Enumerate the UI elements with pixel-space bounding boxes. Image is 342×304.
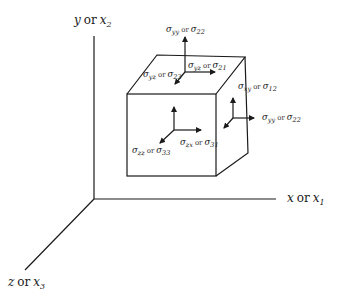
right-face-stress-arrows: [224, 98, 254, 128]
stress-cube-diagram: yorx2 xorx1 zorx3 σyyorσ22 σyzorσ21 σyzo…: [0, 0, 342, 304]
stress-label-sigma-zx-31: σzxorσ31: [180, 138, 219, 149]
stress-label-sigma-yz-23: σyzorσ23: [143, 70, 182, 81]
stress-label-sigma-yy-right: σyyorσ22: [262, 113, 301, 124]
z-axis-label: zorx3: [8, 276, 45, 291]
cube-front-face: [127, 94, 216, 176]
stress-label-sigma-zz-33: σzzorσ33: [132, 146, 170, 157]
y-axis-label: yorx2: [74, 14, 112, 29]
diagram-lines: [0, 0, 342, 304]
stress-label-sigma-yz-21: σyzorσ21: [188, 61, 227, 72]
stress-label-sigma-xy-12: σxyorσ12: [238, 82, 277, 93]
z-axis-line: [25, 199, 94, 270]
cube-right-face: [216, 57, 248, 176]
stress-label-sigma-yy-top: σyyorσ22: [166, 25, 205, 36]
x-axis-label: xorx1: [287, 192, 325, 207]
